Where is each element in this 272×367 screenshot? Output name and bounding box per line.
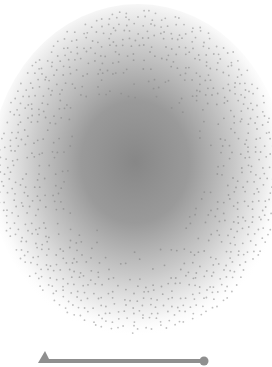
stipple-sphere-figure <box>0 0 272 367</box>
slider-line[interactable] <box>38 351 209 366</box>
sphere-shading <box>0 4 272 340</box>
triangle-marker-icon <box>38 351 51 363</box>
circle-handle-icon[interactable] <box>200 357 209 366</box>
